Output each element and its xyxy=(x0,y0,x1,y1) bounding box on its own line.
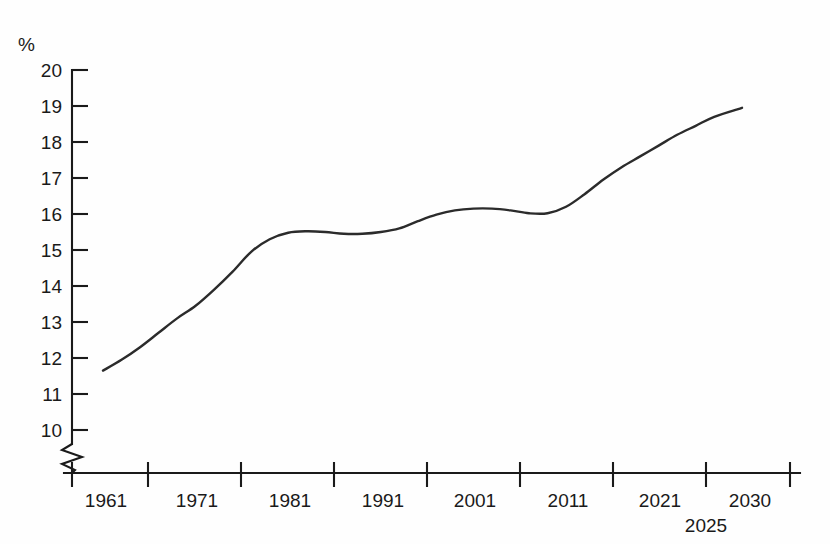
y-tick-label-11: 11 xyxy=(42,384,62,405)
y-tick-label-16: 16 xyxy=(41,204,62,225)
y-tick-label-17: 17 xyxy=(41,168,62,189)
x-tick-label-2021: 2021 xyxy=(639,490,681,511)
x-tick-label-1991: 1991 xyxy=(362,490,404,511)
y-tick-label-19: 19 xyxy=(41,96,62,117)
y-tick-label-20: 20 xyxy=(41,60,62,81)
x-tick-labels: 1961 1971 1981 1991 2001 2011 2021 2030 … xyxy=(85,490,771,536)
x-tick-label-2030: 2030 xyxy=(729,490,771,511)
y-tick-label-15: 15 xyxy=(41,240,62,261)
line-chart: % 20 19 18 17 16 15 1 xyxy=(0,0,830,544)
y-axis-unit-label: % xyxy=(18,34,35,55)
x-tick-marks xyxy=(72,462,790,487)
x-tick-label-1971: 1971 xyxy=(176,490,218,511)
x-tick-label-1961: 1961 xyxy=(85,490,127,511)
y-tick-label-10: 10 xyxy=(41,420,62,441)
y-tick-label-14: 14 xyxy=(41,276,63,297)
data-series-line xyxy=(103,108,742,371)
y-tick-labels: 20 19 18 17 16 15 14 13 12 11 10 xyxy=(41,60,63,441)
y-tick-marks xyxy=(72,70,88,430)
y-tick-label-13: 13 xyxy=(41,312,62,333)
y-tick-label-18: 18 xyxy=(41,132,62,153)
y-tick-label-12: 12 xyxy=(41,348,62,369)
chart-canvas: % 20 19 18 17 16 15 1 xyxy=(0,0,830,544)
x-tick-label-1981: 1981 xyxy=(269,490,311,511)
x-tick-label-2011: 2011 xyxy=(548,490,589,511)
x-tick-sublabel-2025: 2025 xyxy=(685,515,727,536)
x-tick-label-2001: 2001 xyxy=(454,490,496,511)
